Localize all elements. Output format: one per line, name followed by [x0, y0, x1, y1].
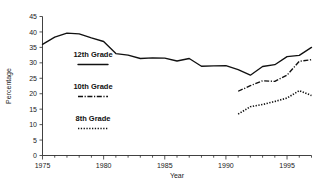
chart-container: 051015202530354045 19751980198519901995 …: [0, 0, 323, 182]
x-axis-title: Year: [170, 172, 185, 179]
y-tick-label: 10: [29, 121, 37, 128]
chart-background: [0, 0, 323, 182]
x-tick-label: 1975: [35, 162, 51, 169]
legend-label-8th-grade: 8th Grade: [75, 114, 110, 123]
legend-label-10th-grade: 10th Grade: [73, 82, 112, 91]
y-tick-label: 5: [33, 137, 37, 144]
legend-label-12th-grade: 12th Grade: [73, 50, 112, 59]
line-chart: 051015202530354045 19751980198519901995 …: [0, 0, 323, 182]
y-tick-label: 0: [33, 152, 37, 159]
y-axis-title: Percentage: [5, 68, 13, 104]
x-tick-label: 1980: [96, 162, 112, 169]
y-tick-label: 20: [29, 90, 37, 97]
y-tick-label: 15: [29, 106, 37, 113]
y-tick-label: 45: [29, 13, 37, 20]
x-tick-label: 1995: [279, 162, 295, 169]
x-tick-label: 1990: [218, 162, 234, 169]
x-tick-label: 1985: [157, 162, 173, 169]
y-tick-label: 35: [29, 44, 37, 51]
y-tick-label: 25: [29, 75, 37, 82]
y-tick-label: 30: [29, 59, 37, 66]
y-tick-label: 40: [29, 29, 37, 36]
